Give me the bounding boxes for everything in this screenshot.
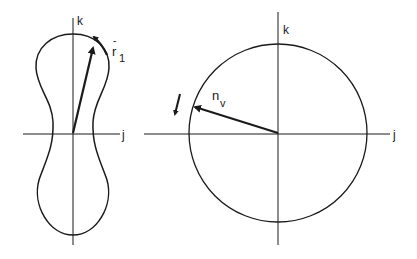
left-k-label: k <box>77 14 84 28</box>
right-diagram: k j n v <box>144 12 396 245</box>
rotation-arrow-icon <box>175 94 180 114</box>
nv-symbol: n <box>212 88 219 103</box>
nv-vector <box>195 107 278 133</box>
nv-subscript: v <box>220 97 226 109</box>
diagram-canvas: k j - r 1 k j n v <box>0 0 417 259</box>
r1-vector <box>73 48 93 133</box>
rotation-arrow-icon <box>94 37 107 55</box>
left-diagram: k j - r 1 <box>23 14 125 245</box>
r1-subscript: 1 <box>119 52 125 64</box>
r1-symbol: r <box>112 44 117 59</box>
right-k-label: k <box>283 23 290 37</box>
right-j-label: j <box>392 128 396 142</box>
left-j-label: j <box>121 128 125 142</box>
